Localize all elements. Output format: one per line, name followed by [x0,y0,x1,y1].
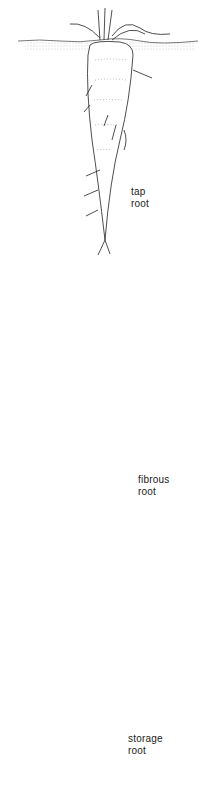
storage-root-label-line2: root [128,745,163,757]
tap-root-drawing [18,8,198,255]
tap-root-label-line2: root [131,198,149,210]
root-types-illustration [0,0,219,799]
storage-root-label-line1: storage [128,733,163,745]
tap-root-label-line1: tap [131,186,149,198]
storage-root-label: storage root [128,733,163,757]
fibrous-root-label: fibrous root [138,474,169,498]
fibrous-root-label-line2: root [138,486,169,498]
fibrous-root-label-line1: fibrous [138,474,169,486]
tap-root-label: tap root [131,186,149,210]
